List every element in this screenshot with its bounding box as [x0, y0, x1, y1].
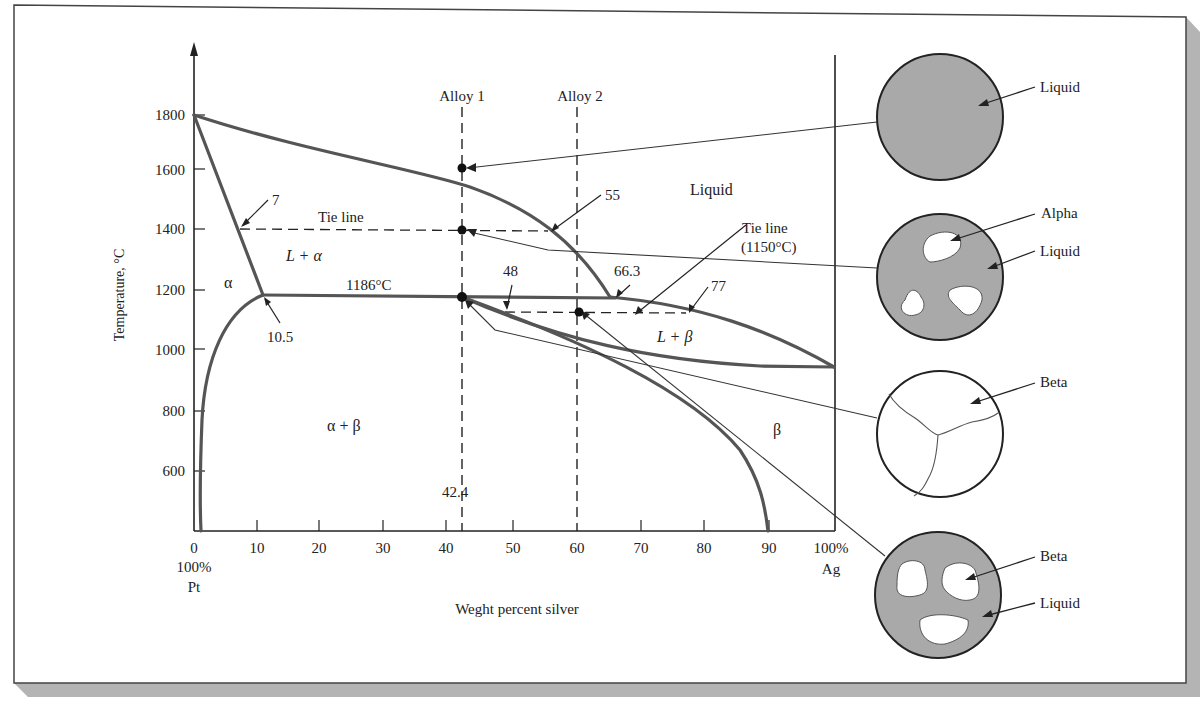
label-66-3: 66.3 — [614, 263, 640, 279]
x-tick-60: 60 — [570, 540, 585, 556]
alloy1-point-1600 — [458, 164, 467, 173]
x-tick-90: 90 — [762, 540, 777, 556]
y-tick-800: 800 — [163, 403, 186, 419]
label-55: 55 — [605, 187, 620, 203]
region-alpha: α — [224, 274, 233, 291]
micrograph-4-beta-label: Beta — [1040, 548, 1068, 564]
x-tick-80: 80 — [697, 540, 712, 556]
region-liquid: Liquid — [690, 181, 733, 199]
alloy1-point-1400 — [458, 226, 467, 235]
region-alpha-beta: α + β — [327, 417, 361, 435]
x-tick-30: 30 — [376, 540, 391, 556]
region-beta: β — [773, 421, 781, 439]
y-tick-600: 600 — [163, 463, 186, 479]
y-tick-1200: 1200 — [155, 282, 185, 298]
region-l-alpha: L + α — [285, 247, 322, 264]
x-tick-20: 20 — [312, 540, 327, 556]
label-1186c: 1186°C — [346, 277, 391, 293]
region-l-beta: L + β — [656, 328, 692, 346]
alloy1-point-1186 — [457, 292, 467, 302]
y-tick-1600: 1600 — [155, 162, 185, 178]
x-tick-10: 10 — [250, 540, 265, 556]
alloy2-point-1150 — [575, 308, 584, 317]
x-tick-50: 50 — [506, 540, 521, 556]
y-tick-1000: 1000 — [155, 342, 185, 358]
label-7: 7 — [272, 192, 280, 208]
x-tick-0: 0 — [190, 540, 198, 556]
label-48: 48 — [503, 263, 518, 279]
label-42-4: 42.4 — [442, 484, 469, 500]
x-left-percent: 100% — [177, 559, 212, 575]
y-tick-1400: 1400 — [155, 221, 185, 237]
x-right-element: Ag — [822, 561, 841, 577]
y-axis-title: Temperature, °C — [112, 249, 127, 341]
figure-canvas: 1800 1600 1400 1200 1000 800 600 Tempera… — [0, 0, 1203, 717]
label-tie-line: Tie line — [318, 209, 364, 225]
x-right-percent: 100% — [814, 540, 849, 556]
label-77: 77 — [711, 278, 727, 294]
micrograph-4-liquid-label: Liquid — [1040, 595, 1080, 611]
x-left-element: Pt — [188, 579, 201, 595]
label-10-5: 10.5 — [267, 329, 293, 345]
alloy-1-label: Alloy 1 — [439, 88, 484, 104]
alloy-2-label: Alloy 2 — [557, 88, 602, 104]
micrograph-2-alpha-label: Alpha — [1041, 205, 1078, 221]
x-tick-40: 40 — [439, 540, 454, 556]
label-1150c: (1150°C) — [741, 239, 796, 256]
micrograph-3-beta-label: Beta — [1040, 374, 1068, 390]
micrograph-1-liquid-label: Liquid — [1040, 79, 1080, 95]
x-tick-70: 70 — [634, 540, 649, 556]
label-tie-line-1150: Tie line — [742, 220, 788, 236]
y-tick-1800: 1800 — [155, 107, 185, 123]
x-axis-title: Weght percent silver — [455, 601, 579, 617]
micrograph-2-liquid-label: Liquid — [1040, 243, 1080, 259]
